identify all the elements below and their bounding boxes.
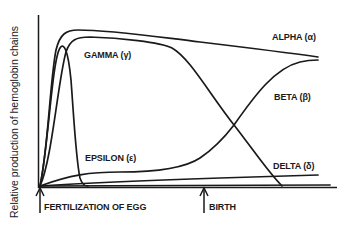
alpha-label: ALPHA (α) <box>272 32 316 42</box>
fertilization-arrow-icon <box>36 188 44 213</box>
epsilon-label: EPSILON (ε) <box>85 153 136 163</box>
y-axis-label: Relative production of hemoglobin chains <box>8 26 20 218</box>
fertilization-label: FERTILIZATION OF EGG <box>44 202 146 212</box>
gamma-curve <box>40 37 282 186</box>
gamma-label: GAMMA (γ) <box>84 50 131 60</box>
birth-arrow-icon <box>200 188 208 213</box>
birth-label: BIRTH <box>209 202 236 212</box>
delta-label: DELTA (δ) <box>273 161 314 171</box>
beta-label: BETA (β) <box>274 92 311 102</box>
baseline-trace <box>40 185 330 186</box>
